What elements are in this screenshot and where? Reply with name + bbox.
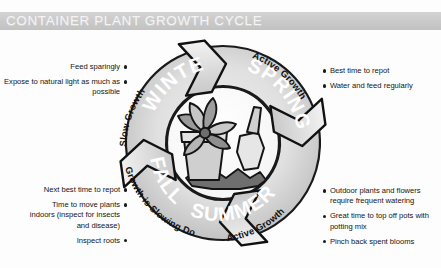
note-text: Best time to repot (330, 66, 390, 76)
list-item: Great time to top off pots with potting … (323, 211, 441, 231)
note-text: Outdoor plants and flowers require frequ… (330, 186, 435, 206)
note-text: Time to move plants indoors (inspect for… (28, 200, 120, 231)
list-item: Pinch back spent blooms (323, 237, 441, 247)
notes-summer: Outdoor plants and flowers require frequ… (323, 186, 441, 252)
list-item: Water and feed regularly (323, 81, 441, 91)
note-text: Great time to top off pots with potting … (330, 211, 435, 231)
list-item: Best time to repot (323, 66, 441, 76)
notes-spring: Best time to repot Water and feed regula… (323, 66, 441, 96)
note-text: Water and feed regularly (330, 81, 413, 91)
infographic-root: CONTAINER PLANT GROWTH CYCLE Feed sparin… (0, 0, 441, 268)
note-text: Expose to natural light as much as possi… (2, 77, 120, 97)
note-text: Pinch back spent blooms (330, 237, 435, 247)
list-item: Outdoor plants and flowers require frequ… (323, 186, 441, 206)
growth-cycle-diagram: WINTER SPRING SUMMER FALL Slow Growth Ac… (108, 28, 338, 258)
